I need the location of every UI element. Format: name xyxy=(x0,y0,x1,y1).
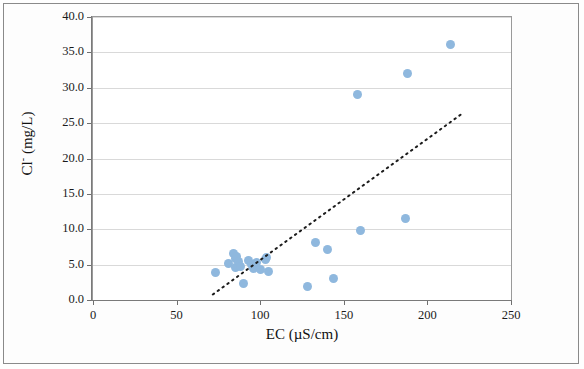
y-tick-label: 5.0 xyxy=(68,257,84,272)
data-point xyxy=(356,226,365,235)
x-axis-label: EC (µS/cm) xyxy=(92,326,512,343)
data-point xyxy=(401,214,410,223)
x-tick-mark xyxy=(93,301,94,305)
figure-frame: 0.05.010.015.020.025.030.035.040.0 05010… xyxy=(3,3,579,364)
data-point xyxy=(329,274,338,283)
x-tick-label: 50 xyxy=(152,308,202,323)
x-tick-mark xyxy=(344,301,345,305)
x-tick-label: 150 xyxy=(319,308,369,323)
y-tick-label: 10.0 xyxy=(62,221,84,236)
y-axis-label-superscript: - xyxy=(17,158,28,161)
y-tick-label: 35.0 xyxy=(62,44,84,59)
plot-inner xyxy=(93,17,511,300)
data-point xyxy=(403,69,412,78)
data-point xyxy=(264,267,273,276)
gridline xyxy=(93,265,511,266)
x-tick-label: 0 xyxy=(68,308,118,323)
y-axis-label-unit: (mg/L) xyxy=(19,112,35,158)
y-axis-label-main: Cl xyxy=(19,161,35,175)
y-tick-label: 25.0 xyxy=(62,115,84,130)
y-tick-label: 30.0 xyxy=(62,80,84,95)
gridline xyxy=(93,194,511,195)
gridline xyxy=(93,159,511,160)
chart-screenshot: 0.05.010.015.020.025.030.035.040.0 05010… xyxy=(0,0,584,369)
data-point xyxy=(311,238,320,247)
data-point xyxy=(303,282,312,291)
y-tick-label: 20.0 xyxy=(62,151,84,166)
data-point xyxy=(323,245,332,254)
data-point xyxy=(262,253,271,262)
x-tick-mark xyxy=(260,301,261,305)
gridline xyxy=(93,52,511,53)
y-tick-label: 15.0 xyxy=(62,186,84,201)
y-tick-label: 40.0 xyxy=(62,9,84,24)
data-point xyxy=(239,279,248,288)
y-tick-label: 0.0 xyxy=(68,292,84,307)
data-point xyxy=(446,40,455,49)
gridline xyxy=(93,229,511,230)
x-tick-mark xyxy=(511,301,512,305)
data-point xyxy=(353,90,362,99)
plot-area xyxy=(92,16,512,301)
y-axis-line xyxy=(91,16,92,301)
x-tick-mark xyxy=(427,301,428,305)
x-tick-label: 200 xyxy=(402,308,452,323)
x-axis-line xyxy=(92,300,512,301)
x-tick-label: 250 xyxy=(486,308,536,323)
data-point xyxy=(236,262,245,271)
data-point xyxy=(211,268,220,277)
gridline xyxy=(93,123,511,124)
y-axis-label: Cl- (mg/L) xyxy=(17,59,36,229)
gridline xyxy=(93,88,511,89)
gridline xyxy=(93,17,511,18)
x-tick-mark xyxy=(177,301,178,305)
x-tick-label: 100 xyxy=(235,308,285,323)
